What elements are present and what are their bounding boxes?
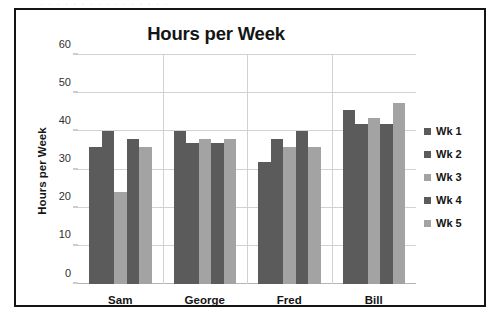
bar[interactable]	[271, 139, 284, 284]
legend-item[interactable]: Wk 3	[424, 168, 486, 186]
legend-item[interactable]: Wk 4	[424, 191, 486, 209]
bar[interactable]	[139, 147, 152, 284]
bar-group: Sam	[78, 55, 163, 284]
bar[interactable]	[174, 131, 187, 284]
bar[interactable]	[368, 118, 381, 284]
legend-swatch-icon	[424, 197, 431, 204]
bar-group: Fred	[247, 55, 332, 284]
y-axis-tick-label: 10	[59, 228, 71, 240]
y-axis-tick-label: 20	[59, 190, 71, 202]
scan-edge-artifact: · · · · · · · · · · · · · · · ·	[0, 0, 500, 8]
chart-frame: Hours per Week Hours per Week 0102030405…	[14, 8, 486, 307]
legend-label: Wk 3	[436, 171, 462, 183]
plot-area: 0102030405060 SamGeorgeFredBill	[78, 55, 416, 284]
legend-label: Wk 5	[436, 217, 462, 229]
bar[interactable]	[283, 147, 296, 284]
bar[interactable]	[308, 147, 321, 284]
legend-label: Wk 1	[436, 125, 462, 137]
bar[interactable]	[102, 131, 115, 284]
bar[interactable]	[127, 139, 140, 284]
bar[interactable]	[114, 192, 127, 284]
y-axis-tick-label: 60	[59, 38, 71, 50]
bar[interactable]	[380, 124, 393, 284]
x-axis-category-label: Sam	[78, 294, 163, 306]
legend-swatch-icon	[424, 220, 431, 227]
chart-legend: Wk 1Wk 2Wk 3Wk 4Wk 5	[424, 122, 486, 237]
category-separator	[163, 55, 164, 284]
bar[interactable]	[211, 143, 224, 284]
bar[interactable]	[343, 110, 356, 284]
bar[interactable]	[296, 131, 309, 284]
x-axis-category-label: George	[163, 294, 248, 306]
x-axis-category-label: Fred	[247, 294, 332, 306]
legend-swatch-icon	[424, 151, 431, 158]
legend-label: Wk 4	[436, 194, 462, 206]
bar-group: George	[163, 55, 248, 284]
bar[interactable]	[89, 147, 102, 284]
bar[interactable]	[393, 103, 406, 284]
legend-swatch-icon	[424, 174, 431, 181]
legend-item[interactable]: Wk 2	[424, 145, 486, 163]
legend-item[interactable]: Wk 5	[424, 214, 486, 232]
y-axis-tick-label: 50	[59, 76, 71, 88]
bar[interactable]	[224, 139, 237, 284]
bar[interactable]	[355, 124, 368, 284]
bar[interactable]	[186, 143, 199, 284]
y-axis-tick-label: 40	[59, 114, 71, 126]
y-axis-title: Hours per Week	[36, 101, 48, 241]
bar[interactable]	[199, 139, 212, 284]
bar-group: Bill	[332, 55, 417, 284]
y-axis-tick-label: 30	[59, 152, 71, 164]
x-axis-category-label: Bill	[332, 294, 417, 306]
bar[interactable]	[258, 162, 271, 284]
category-separator	[247, 55, 248, 284]
legend-label: Wk 2	[436, 148, 462, 160]
category-separator	[332, 55, 333, 284]
y-axis-tick-label: 0	[65, 267, 71, 279]
legend-swatch-icon	[424, 128, 431, 135]
legend-item[interactable]: Wk 1	[424, 122, 486, 140]
chart-title: Hours per Week	[16, 23, 416, 45]
